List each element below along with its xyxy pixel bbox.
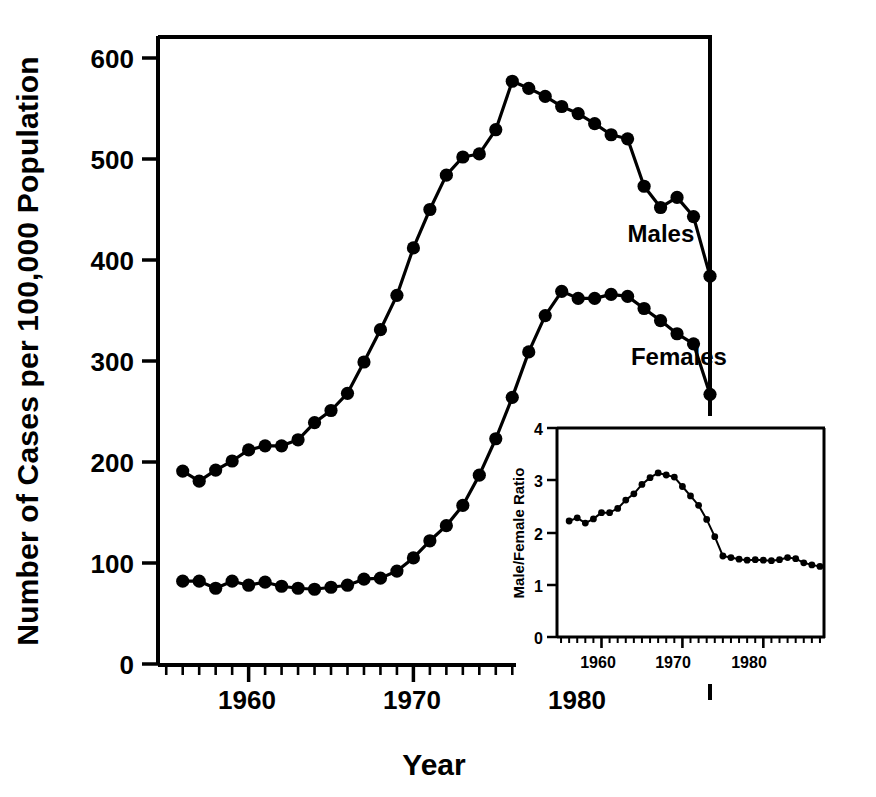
females-point xyxy=(308,583,321,596)
females-point xyxy=(374,572,387,585)
inset-ratio-point xyxy=(800,559,807,566)
inset-ratio-point xyxy=(703,516,710,523)
y-axis-title: Number of Cases per 100,000 Population xyxy=(11,56,44,645)
females-point xyxy=(176,575,189,588)
males-point xyxy=(670,191,683,204)
inset-ratio-point xyxy=(590,516,597,523)
inset-x-label-1970: 1970 xyxy=(655,654,691,671)
females-point xyxy=(621,290,634,303)
males-point xyxy=(572,107,585,120)
females-point xyxy=(275,580,288,593)
females-point xyxy=(703,388,716,401)
males-point xyxy=(703,270,716,283)
females-point xyxy=(440,519,453,532)
males-point xyxy=(440,169,453,182)
y-tick-label-600: 600 xyxy=(91,44,134,74)
males-point xyxy=(522,82,535,95)
inset-ratio-point xyxy=(614,505,621,512)
x-tick-label-1970: 1970 xyxy=(383,685,441,715)
females-point xyxy=(242,579,255,592)
males-point xyxy=(308,416,321,429)
females-point xyxy=(357,573,370,586)
epidemiology-line-chart: 600 500 400 300 200 100 0 1960 1970 1980… xyxy=(0,0,876,797)
inset-ratio-point xyxy=(647,474,654,481)
females-point xyxy=(390,564,403,577)
inset-ratio-point xyxy=(582,520,589,527)
inset-ratio-point xyxy=(630,490,637,497)
inset-x-label-1980: 1980 xyxy=(731,654,767,671)
series-label-females: Females xyxy=(631,343,727,370)
inset-ratio-point xyxy=(784,554,791,561)
inset-y-axis-title: Male/Female Ratio xyxy=(510,468,527,599)
inset-background xyxy=(516,416,828,684)
inset-y-label-2: 2 xyxy=(534,526,543,543)
males-point xyxy=(324,404,337,417)
females-point xyxy=(539,309,552,322)
figure-container: 600 500 400 300 200 100 0 1960 1970 1980… xyxy=(0,0,876,797)
series-label-males: Males xyxy=(628,220,695,247)
inset-ratio-point xyxy=(744,557,751,564)
inset-y-label-4: 4 xyxy=(534,421,543,438)
y-tick-label-0: 0 xyxy=(120,650,134,680)
inset-chart: 4 3 2 1 0 1960 1970 1980 Male/Female Rat… xyxy=(510,416,828,684)
inset-ratio-point xyxy=(606,509,613,516)
males-point xyxy=(605,128,618,141)
inset-ratio-point xyxy=(736,556,743,563)
y-tick-label-400: 400 xyxy=(91,246,134,276)
males-point xyxy=(209,463,222,476)
females-point xyxy=(588,292,601,305)
males-point xyxy=(390,289,403,302)
females-point xyxy=(522,345,535,358)
males-point xyxy=(357,355,370,368)
males-point xyxy=(176,464,189,477)
inset-y-label-3: 3 xyxy=(534,473,543,490)
inset-ratio-point xyxy=(776,556,783,563)
males-point xyxy=(489,123,502,136)
males-point xyxy=(637,180,650,193)
x-tick-label-1980: 1980 xyxy=(548,685,606,715)
females-point xyxy=(291,582,304,595)
inset-ratio-point xyxy=(711,533,718,540)
females-point xyxy=(226,575,239,588)
inset-x-tick-labels: 1960 1970 1980 xyxy=(580,654,767,671)
inset-x-label-1960: 1960 xyxy=(580,654,616,671)
females-point xyxy=(489,432,502,445)
males-point xyxy=(456,150,469,163)
inset-y-label-0: 0 xyxy=(534,630,543,647)
males-point xyxy=(423,203,436,216)
males-point xyxy=(555,100,568,113)
y-tick-label-300: 300 xyxy=(91,347,134,377)
females-point xyxy=(259,576,272,589)
inset-ratio-point xyxy=(679,483,686,490)
inset-ratio-point xyxy=(598,509,605,516)
inset-ratio-point xyxy=(760,557,767,564)
males-point xyxy=(506,75,519,88)
inset-ratio-point xyxy=(817,563,824,570)
inset-ratio-point xyxy=(671,474,678,481)
females-point xyxy=(506,391,519,404)
females-point xyxy=(670,327,683,340)
males-point xyxy=(473,147,486,160)
inset-ratio-point xyxy=(719,553,726,560)
inset-ratio-point xyxy=(695,502,702,509)
females-point xyxy=(341,579,354,592)
females-point xyxy=(555,285,568,298)
inset-ratio-point xyxy=(752,556,759,563)
y-tick-label-100: 100 xyxy=(91,549,134,579)
males-point xyxy=(291,433,304,446)
females-point xyxy=(193,575,206,588)
females-point xyxy=(637,302,650,315)
males-point xyxy=(341,387,354,400)
males-point xyxy=(226,454,239,467)
inset-ratio-point xyxy=(792,555,799,562)
males-point xyxy=(407,241,420,254)
inset-ratio-point xyxy=(622,497,629,504)
inset-ratio-point xyxy=(687,493,694,500)
inset-ratio-point xyxy=(808,561,815,568)
females-point xyxy=(572,292,585,305)
males-point xyxy=(259,439,272,452)
females-point xyxy=(423,534,436,547)
inset-ratio-point xyxy=(663,472,670,479)
females-point xyxy=(456,499,469,512)
females-point xyxy=(407,551,420,564)
